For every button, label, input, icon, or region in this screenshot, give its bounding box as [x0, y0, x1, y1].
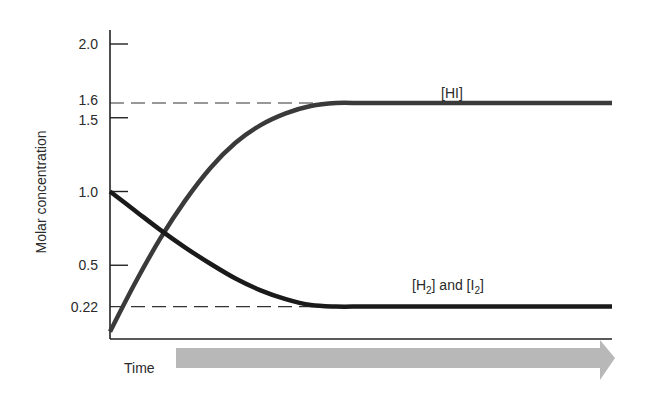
series-lines	[110, 103, 612, 332]
y-tick-label: 1.0	[79, 184, 99, 200]
x-axis-label: Time	[124, 360, 155, 376]
y-tick-label: 0.5	[79, 257, 99, 273]
y-tick-label: 2.0	[79, 36, 99, 52]
y-tick-label: 1.5	[79, 112, 99, 128]
y-tick-label: 1.6	[79, 92, 99, 108]
h2-i2-part-1: [H	[412, 277, 426, 293]
axes	[110, 30, 612, 339]
chart: 2.01.61.51.00.50.22 Molar concentration …	[0, 0, 650, 396]
time-arrow	[176, 340, 615, 380]
h2-i2-part-3: ]	[480, 277, 484, 293]
reference-lines	[110, 103, 612, 307]
series-line-hi	[110, 103, 612, 332]
y-tick-label: 0.22	[71, 299, 98, 315]
y-ticks: 2.01.61.51.00.50.22	[71, 36, 128, 315]
h2-i2-annotation: [H2] and [I2]	[412, 277, 484, 296]
time-arrow-shape	[176, 340, 615, 380]
hi-annotation: [HI]	[441, 85, 463, 101]
series-line-h2-i2	[110, 192, 612, 307]
h2-i2-part-2: ] and [I	[432, 277, 475, 293]
y-axis-label: Molar concentration	[33, 131, 49, 254]
